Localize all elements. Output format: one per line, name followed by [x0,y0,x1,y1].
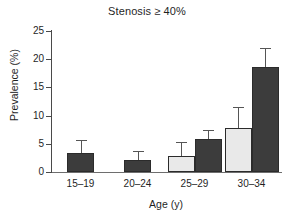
error-bar-cap [260,48,271,49]
bar-dark [195,139,222,172]
bar-dark [124,160,151,172]
error-bar-stem [138,151,139,159]
error-bar-cap [203,130,214,131]
x-axis-label: Age (y) [52,198,280,210]
x-axis-tick-label: 20–24 [108,178,168,189]
y-axis-tick-label-wrap: 15 [0,82,44,92]
y-axis-tick-label-wrap: 25 [0,26,44,36]
error-bar-stem [81,140,82,153]
y-axis-tick-label-wrap: 10 [0,111,44,121]
y-axis-tick-label: 0 [4,167,44,177]
x-axis-tick-label: 25–29 [165,178,225,189]
error-bar-cap [176,142,187,143]
bar-dark [67,153,94,172]
error-bar-stem [208,130,209,140]
chart-figure: Stenosis ≥ 40% 0510152025 Prevalence (%)… [0,0,294,222]
plot-area [52,31,280,172]
bar-dark [252,67,279,172]
x-axis-tick-label: 15–19 [51,178,111,189]
y-axis-tick-label-wrap: 0 [0,167,44,177]
x-axis-line [51,172,282,173]
y-axis-tick [46,172,52,173]
bar-light [225,128,252,172]
y-axis-tick-label-wrap: 5 [0,139,44,149]
error-bar-cap [76,140,87,141]
error-bar-stem [238,107,239,128]
y-axis-label: Prevalence (%) [8,20,20,150]
error-bar-cap [233,107,244,108]
error-bar-stem [265,48,266,67]
bar-light [168,156,195,172]
y-axis-tick-label-wrap: 20 [0,54,44,64]
error-bar-cap [133,151,144,152]
chart-title: Stenosis ≥ 40% [0,5,294,17]
x-axis-tick-label: 30–34 [222,178,282,189]
error-bar-stem [181,142,182,156]
